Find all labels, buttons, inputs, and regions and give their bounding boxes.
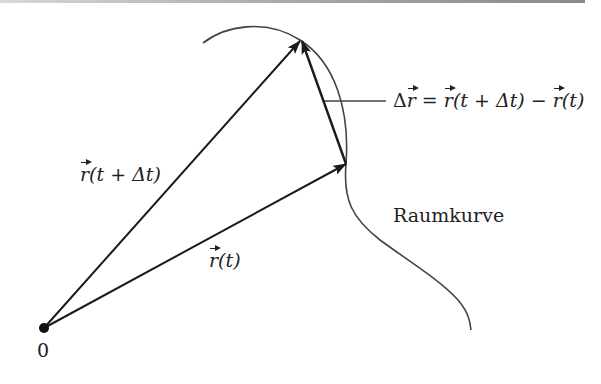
- label-origin: 0: [37, 341, 49, 360]
- vector-r-symbol: r: [80, 165, 89, 184]
- vector-r-symbol: r: [553, 91, 562, 110]
- space-curve: [203, 27, 471, 330]
- diagram-canvas: [0, 0, 601, 384]
- label-args: (t + Δt): [453, 89, 525, 111]
- vector-r-t: [44, 164, 346, 328]
- equals-sign: =: [416, 89, 444, 111]
- label-args: (t): [562, 89, 584, 111]
- label-r-t-plus-dt: r(t + Δt): [80, 165, 161, 184]
- origin-point: [39, 323, 49, 333]
- label-r-t: r(t): [209, 251, 241, 270]
- label-args: (t + Δt): [89, 163, 161, 185]
- label-raumkurve: Raumkurve: [393, 206, 504, 225]
- vector-delta-r: [302, 41, 346, 164]
- vector-r-symbol: r: [407, 91, 416, 110]
- minus-sign: −: [525, 89, 553, 111]
- delta-symbol: Δ: [393, 89, 407, 111]
- label-delta-r-equation: Δr = r(t + Δt) − r(t): [393, 91, 584, 110]
- vector-r-symbol: r: [209, 251, 218, 270]
- label-args: (t): [218, 249, 240, 271]
- vector-r-symbol: r: [444, 91, 453, 110]
